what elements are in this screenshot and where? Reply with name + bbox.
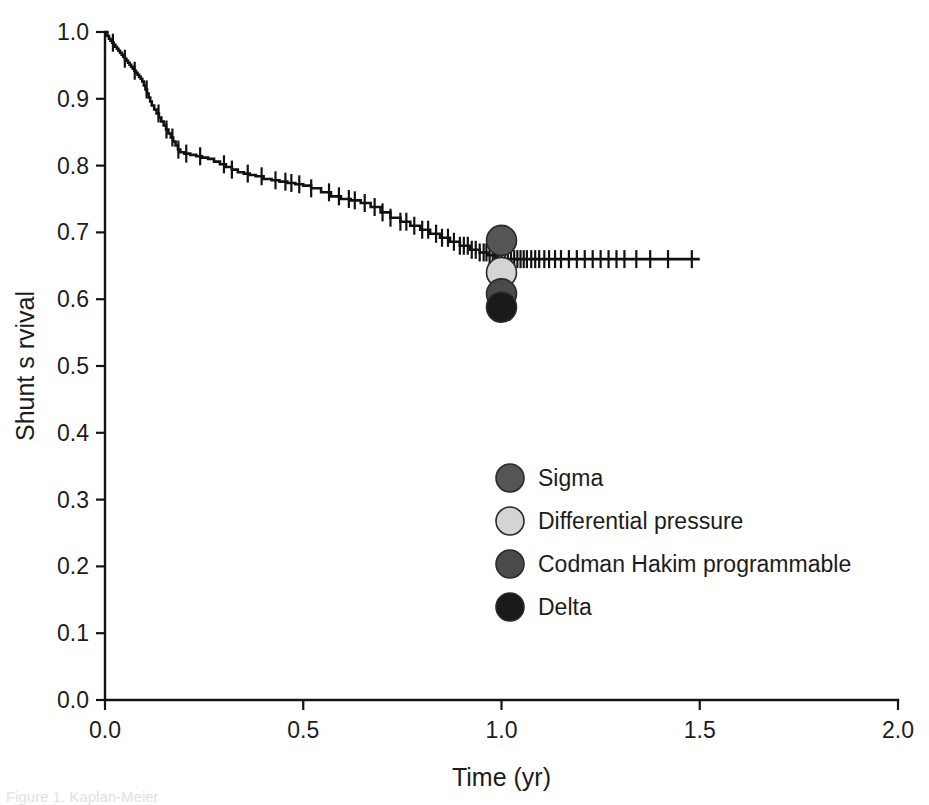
y-tick-label: 0.1 (57, 620, 89, 646)
y-tick-label: 0.7 (57, 219, 89, 245)
y-tick-label: 0.2 (57, 553, 89, 579)
legend-label: Codman Hakim programmable (538, 551, 851, 577)
figure-caption: Figure 1. Kaplan-Meier (0, 788, 929, 805)
y-axis-title: Shunt s rvival (11, 291, 39, 441)
x-tick-label: 0.0 (89, 717, 121, 743)
axis-titles: Time (yr)Shunt s rvival (11, 291, 551, 791)
legend-label: Differential pressure (538, 508, 743, 534)
x-tick-label: 1.0 (486, 717, 518, 743)
legend-swatch (496, 507, 524, 535)
legend-label: Sigma (538, 465, 603, 491)
x-tick-label: 2.0 (882, 717, 914, 743)
y-tick-label: 0.9 (57, 86, 89, 112)
x-tick-label: 1.5 (684, 717, 716, 743)
legend-swatch (496, 593, 524, 621)
survival-step-line (105, 32, 700, 259)
shunt-type-markers (487, 225, 517, 322)
axis-tick-labels: 0.00.10.20.30.40.50.60.70.80.91.00.00.51… (57, 19, 914, 743)
legend-label: Delta (538, 594, 592, 620)
y-tick-label: 0.0 (57, 687, 89, 713)
y-tick-label: 0.3 (57, 487, 89, 513)
data-point-marker (487, 292, 517, 322)
legend: SigmaDifferential pressureCodman Hakim p… (496, 464, 851, 621)
y-tick-label: 0.5 (57, 353, 89, 379)
legend-swatch (496, 464, 524, 492)
y-tick-label: 0.6 (57, 286, 89, 312)
data-point-marker (487, 225, 517, 255)
x-tick-label: 0.5 (287, 717, 319, 743)
y-tick-label: 1.0 (57, 19, 89, 45)
chart-canvas: 0.00.10.20.30.40.50.60.70.80.91.00.00.51… (0, 0, 929, 805)
y-tick-label: 0.8 (57, 153, 89, 179)
legend-swatch (496, 550, 524, 578)
figure-caption-strip: Figure 1. Kaplan-Meier (0, 788, 929, 805)
y-tick-label: 0.4 (57, 420, 89, 446)
censoring-marks (113, 34, 692, 268)
x-axis-title: Time (yr) (452, 763, 551, 791)
km-survival-curve (105, 32, 700, 259)
survival-curve-figure: 0.00.10.20.30.40.50.60.70.80.91.00.00.51… (0, 0, 929, 805)
